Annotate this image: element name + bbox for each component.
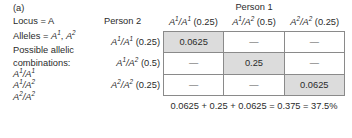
row-header: A2/A2 (0.25) [88,74,162,96]
row-header: A1/A2 (0.5) [88,53,162,75]
panel-label: (a) [13,3,24,14]
matrix-row: — 0.25 — [164,53,344,74]
matrix-cell: 0.25 [224,53,284,73]
matrix-cell: 0.0625 [285,75,344,95]
allele-value-2: A2 [66,31,76,41]
locus-line: Locus = A [13,15,113,27]
person2-header: Person 2 [104,16,141,27]
matrix-cell: — [285,32,344,52]
person1-header: Person 1 [163,2,345,13]
genotype-probability-matrix: 0.0625 — — — 0.25 — — — 0.0625 [163,31,345,96]
summation-line: 0.0625 + 0.25 + 0.0625 = 0.375 = 37.5% [163,100,345,112]
matrix-cell: — [164,53,224,73]
column-header: A2/A2 (0.25) [284,16,345,29]
row-header-column: A1/A1 (0.25) A1/A2 (0.5) A2/A2 (0.25) [88,31,162,96]
column-header: A1/A1 (0.25) [163,16,224,29]
alleles-label: Alleles = [13,31,51,41]
allele-value-1: A1 [51,31,61,41]
row-header: A1/A1 (0.25) [88,31,162,53]
matrix-cell: — [224,75,284,95]
column-header-row: A1/A1 (0.25) A1/A2 (0.5) A2/A2 (0.25) [163,16,345,29]
matrix-cell: — [224,32,284,52]
matrix-row: 0.0625 — — [164,32,344,53]
matrix-cell: 0.0625 [164,32,224,52]
matrix-cell: — [285,53,344,73]
figure-panel-a: (a) Locus = A Alleles = A1, A2 Possible … [0,0,352,138]
matrix-cell: — [164,75,224,95]
matrix-row: — — 0.0625 [164,75,344,95]
column-header: A1/A2 (0.5) [224,16,285,29]
